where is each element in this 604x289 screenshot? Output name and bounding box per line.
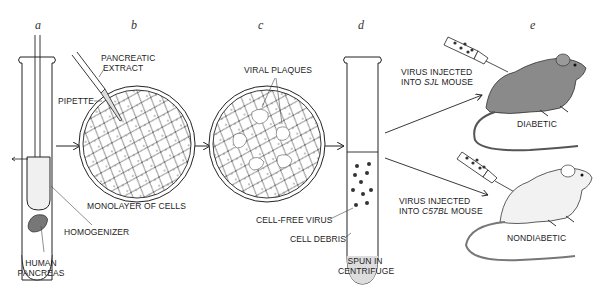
strain-sjl: SJL xyxy=(424,77,439,87)
label-cell-free-virus: CELL-FREE VIRUS xyxy=(256,215,333,225)
step-label-d: d xyxy=(358,18,364,33)
label-pipette: PIPETTE xyxy=(58,96,94,106)
mouse-c57bl-nondiabetic xyxy=(466,165,592,260)
label-pancreatic-extract: PANCREATIC EXTRACT xyxy=(101,53,156,73)
strain-c57bl: C57BL xyxy=(422,206,449,216)
mouse-sjl-diabetic xyxy=(474,54,586,150)
label-centrifuge: CENTRIFUGE xyxy=(338,266,392,276)
label-sjl-line1: VIRUS INJECTED xyxy=(401,67,473,77)
label-extract: EXTRACT xyxy=(101,63,156,73)
arrow-to-sjl xyxy=(385,95,482,133)
step-label-b: b xyxy=(131,18,137,33)
label-pancreatic: PANCREATIC xyxy=(101,53,156,63)
label-human-pancreas: HUMAN PANCREAS xyxy=(16,258,66,278)
label-homogenizer: HOMOGENIZER xyxy=(64,227,129,237)
step-label-c: c xyxy=(258,18,263,33)
label-c57-line1: VIRUS INJECTED xyxy=(399,196,483,206)
label-virus-injected-c57bl: VIRUS INJECTED INTO C57BL MOUSE xyxy=(399,196,483,216)
label-diabetic: DIABETIC xyxy=(517,119,557,129)
centrifuge-tube xyxy=(330,57,382,284)
label-virus-injected-sjl: VIRUS INJECTED INTO SJL MOUSE xyxy=(401,67,473,87)
virus-isolation-diagram: a b c d e HUMAN PANCREAS HOMOGENIZER PAN… xyxy=(0,0,604,289)
petri-dish-monolayer xyxy=(72,52,195,202)
label-spun-in-centrifuge: SPUN IN CENTRIFUGE xyxy=(338,256,392,276)
label-cell-debris: CELL DEBRIS xyxy=(290,234,346,244)
label-monolayer-of-cells: MONOLAYER OF CELLS xyxy=(87,201,186,211)
step-label-e: e xyxy=(530,18,535,33)
petri-dish-plaques xyxy=(209,78,325,202)
homogenizer-tube xyxy=(12,35,92,280)
diagram-artwork xyxy=(0,0,604,289)
label-viral-plaques: VIRAL PLAQUES xyxy=(244,65,312,75)
label-spun-in: SPUN IN xyxy=(338,256,392,266)
label-sjl-line2: INTO SJL MOUSE xyxy=(401,77,473,87)
label-human: HUMAN xyxy=(16,258,66,268)
label-nondiabetic: NONDIABETIC xyxy=(507,233,566,243)
step-label-a: a xyxy=(35,18,41,33)
syringe-icon-c57bl xyxy=(457,152,518,194)
label-pancreas: PANCREAS xyxy=(16,268,66,278)
label-c57-line2: INTO C57BL MOUSE xyxy=(399,206,483,216)
